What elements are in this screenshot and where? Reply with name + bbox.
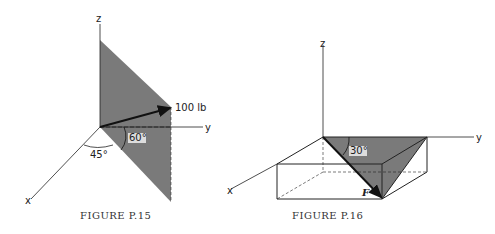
shaded-plane (100, 40, 171, 202)
x-axis-label: x (227, 185, 233, 196)
x-axis-label: x (25, 195, 31, 206)
diagram-canvas: 60° 45° 100 lb z y x FIGURE P.15 30° F z… (0, 0, 495, 234)
caption-p15: FIGURE P.15 (80, 210, 151, 221)
x-axis (231, 164, 277, 189)
angle-45-label: 45° (90, 149, 108, 160)
angle-60-label: 60° (129, 132, 147, 143)
figure-stage: 60° 45° 100 lb z y x FIGURE P.15 30° F z… (0, 0, 495, 234)
figure-p16: 30° F z y x FIGURE P.16 (227, 38, 482, 221)
y-axis-label: y (205, 122, 211, 133)
angle-30-label: 30° (350, 145, 368, 156)
z-axis-label: z (320, 38, 325, 49)
force-label: 100 lb (175, 102, 206, 113)
caption-p16: FIGURE P.16 (292, 210, 363, 221)
y-axis-label: y (476, 132, 482, 143)
force-label: F (361, 187, 370, 198)
z-axis-label: z (96, 13, 101, 24)
x-axis (31, 127, 100, 199)
figure-p15: 60° 45° 100 lb z y x FIGURE P.15 (25, 13, 211, 221)
